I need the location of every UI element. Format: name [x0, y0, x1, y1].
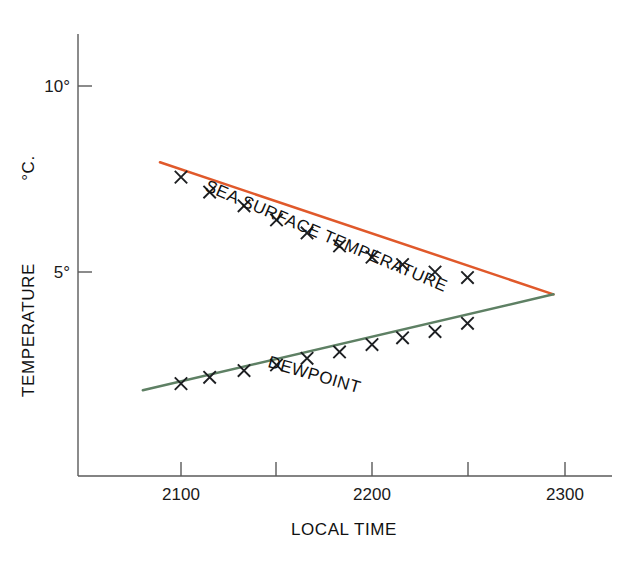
y-tick-label-10: 10° — [44, 77, 70, 96]
chart-figure: 10° 5° 2100 2200 2300 TEMPERATURE °C. LO… — [0, 0, 637, 562]
y-tick-label-5: 5° — [54, 263, 70, 282]
y-axis-unit: °C. — [19, 155, 38, 181]
x-tick-label-2300: 2300 — [546, 485, 584, 504]
chart-background — [0, 0, 637, 562]
chart-svg: 10° 5° 2100 2200 2300 TEMPERATURE °C. LO… — [0, 0, 637, 562]
x-tick-label-2100: 2100 — [162, 485, 200, 504]
x-axis-title: LOCAL TIME — [291, 520, 397, 539]
x-tick-label-2200: 2200 — [353, 485, 391, 504]
y-axis-title: TEMPERATURE — [19, 263, 38, 397]
